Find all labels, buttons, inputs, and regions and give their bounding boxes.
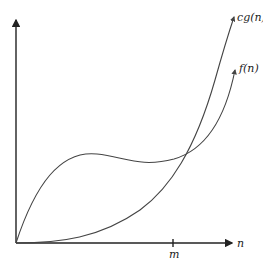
curve-f (16, 70, 235, 243)
label-n: n (237, 237, 244, 250)
curve-cg (16, 17, 234, 243)
label-f: f(n) (238, 62, 259, 75)
asymptotic-diagram: cg(n) f(n) n m (0, 0, 263, 269)
label-m: m (169, 248, 179, 261)
label-cg: cg(n) (237, 11, 263, 24)
